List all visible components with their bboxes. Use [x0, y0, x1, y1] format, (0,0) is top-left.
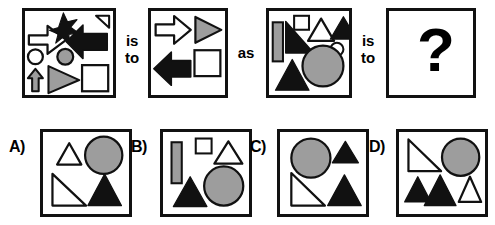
square-small-white-shape [294, 16, 309, 30]
triangle-up-black-shape [88, 174, 122, 206]
circle-large-gray-shape [204, 166, 243, 205]
option-a-label: A) [9, 138, 25, 156]
triangle-up-white-shape [57, 143, 81, 164]
connector-is-second: is [356, 33, 380, 50]
option-a-shapes [43, 132, 129, 214]
bar-vertical-gray-shape [172, 142, 182, 183]
triangle-right-gray-shape [195, 17, 221, 43]
triangle-right-down-white-shape [408, 139, 441, 171]
circle-large-gray-shape [442, 139, 479, 176]
option-c-shapes [280, 132, 366, 214]
option-d-shapes [399, 132, 485, 214]
connector-as-label: as [232, 45, 260, 62]
arrow-left-black-shape [154, 52, 191, 85]
option-a-panel[interactable] [40, 129, 132, 217]
triangle-up-black-shape-top [332, 141, 358, 162]
arrow-up-gray-shape [28, 69, 43, 91]
question-mark: ? [417, 19, 455, 81]
triangle-up-white-shape [214, 141, 242, 163]
circle-large-gray-shape [302, 46, 343, 87]
square-white-shape [82, 65, 108, 91]
triangle-up-black-shape-top [330, 17, 349, 39]
option-b-shapes [163, 132, 249, 214]
circle-small-gray-shape [57, 49, 73, 65]
analogy-panel-b[interactable] [148, 8, 228, 98]
triangle-right-gray-shape [48, 66, 79, 93]
panel-c-shapes [269, 11, 349, 95]
connector-to-second: to [356, 50, 380, 67]
triangle-up-black-shape-left [405, 177, 431, 202]
triangle-up-black-shape-middle [424, 175, 456, 206]
connector-is-to-second: is to [356, 33, 380, 67]
option-c-panel[interactable] [277, 129, 369, 217]
arrow-right-white-shape [156, 16, 191, 44]
triangle-small-white-shape [96, 16, 109, 28]
bar-vertical-gray-shape [273, 22, 283, 61]
analogy-panel-answer-slot[interactable]: ? [386, 8, 476, 98]
analogy-panel-c[interactable] [266, 8, 352, 98]
circle-large-gray-shape [291, 139, 330, 178]
connector-to-first: to [120, 50, 144, 67]
analogy-panel-a[interactable] [22, 8, 116, 98]
panel-b-shapes [151, 11, 225, 95]
panel-a-shapes [25, 11, 113, 95]
connector-is-first: is [120, 33, 144, 50]
option-b-panel[interactable] [160, 129, 252, 217]
square-small-white-shape [196, 139, 212, 154]
square-white-shape [194, 50, 220, 76]
option-b-label: B) [131, 138, 147, 156]
circle-small-white-shape [28, 49, 43, 64]
triangle-right-down-white-shape [52, 174, 86, 206]
connector-as: as [232, 45, 260, 62]
triangle-up-white-shape [308, 19, 334, 41]
option-d-panel[interactable] [396, 129, 488, 217]
circle-large-gray-shape [85, 137, 122, 174]
triangle-up-white-shape [459, 177, 481, 202]
triangle-up-black-shape-bottom [328, 175, 362, 206]
analogy-puzzle-stage: is to as [0, 0, 495, 225]
option-d-label: D) [369, 138, 385, 156]
connector-is-to-first: is to [120, 33, 144, 67]
option-c-label: C) [250, 138, 266, 156]
